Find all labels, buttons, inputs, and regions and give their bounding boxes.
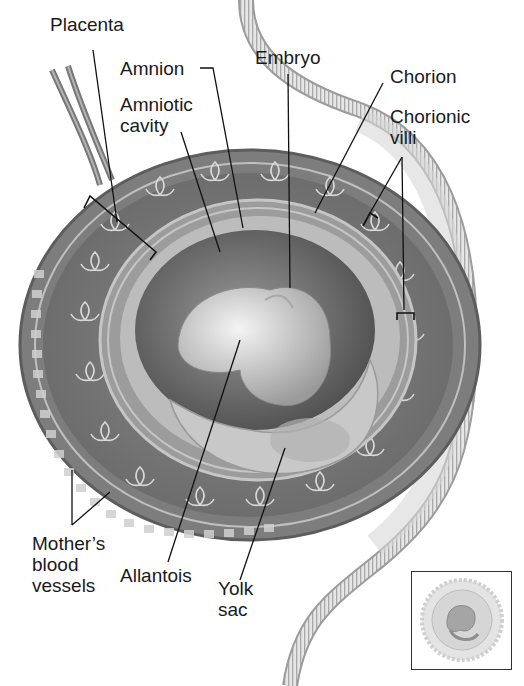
diagram: Placenta Amnion Amniotic cavity Embryo C… bbox=[0, 0, 524, 686]
label-yolk-sac: Yolk sac bbox=[218, 578, 253, 620]
label-amniotic-cavity: Amniotic cavity bbox=[120, 94, 193, 136]
label-placenta: Placenta bbox=[50, 14, 124, 35]
inset-thumbnail bbox=[411, 571, 512, 670]
label-embryo: Embryo bbox=[255, 47, 320, 68]
label-chorionic-villi: Chorionic villi bbox=[390, 106, 470, 148]
inset-illustration bbox=[412, 572, 511, 669]
label-mothers-blood-vessels: Mother’s blood vessels bbox=[32, 533, 105, 596]
label-amnion: Amnion bbox=[120, 58, 184, 79]
label-chorion: Chorion bbox=[390, 66, 457, 87]
label-allantois: Allantois bbox=[120, 565, 192, 586]
